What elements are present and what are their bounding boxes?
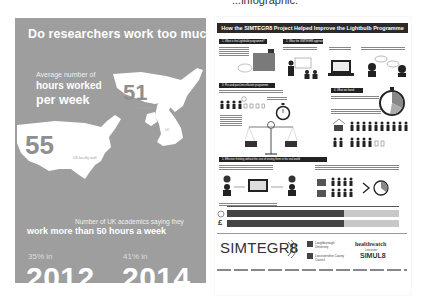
section-3-header: 3. Pre-and post-line efficient programme (219, 83, 275, 88)
bar-ruler (227, 206, 399, 209)
stat-2014-percent: 41% in (123, 252, 147, 261)
leicestershire-logo: Leicestershire County Council (315, 254, 347, 262)
section-4-header: 4. What we found (331, 88, 363, 93)
section-4-text-a (331, 96, 379, 100)
stopwatch-caption (267, 97, 287, 101)
people-row-baseline (331, 136, 391, 148)
panel-title: Do researchers work too much? (28, 27, 206, 41)
clock-icon (217, 210, 225, 218)
headline-50-hours: work more than 50 hours a week (27, 226, 166, 236)
researchers-infographic-panel: Do researchers work too much? 51 UK acad… (15, 18, 206, 283)
time-bar (227, 210, 399, 217)
presenter-icon (285, 57, 321, 79)
people-vs-stopwatch-comparison (315, 175, 405, 199)
divider (217, 233, 407, 234)
section-5-text-b (315, 165, 399, 170)
stopwatch-icon (275, 103, 291, 121)
signal-waves-icon (287, 239, 297, 259)
footer-text (217, 269, 407, 271)
discussion-icon (367, 55, 407, 77)
time-bar-dark (227, 210, 344, 217)
cost-bar-dark (227, 220, 344, 227)
us-hours-label: US faculty staff (73, 156, 96, 160)
us-hours-value: 55 (25, 130, 54, 161)
us-map-shape (15, 113, 135, 213)
scale-caption (220, 115, 242, 127)
time-bar-light (344, 210, 399, 217)
loughborough-crest-icon (307, 241, 313, 247)
section-2-header: 2. What the SIMTEGR8 approach (283, 39, 323, 44)
simtegr8-logo-text: SIMTEGR (220, 239, 290, 256)
stat-2012-percent: 35% in (28, 252, 52, 261)
section-1-header: 1. What is the Lightbulb programme? (219, 39, 267, 44)
stat-2014-year: 2014 (122, 261, 191, 283)
cloud-icon (237, 63, 253, 73)
cost-bar-light (344, 220, 399, 227)
idea-flow-diagram (221, 175, 301, 197)
simtegr8-infographic-panel: How the SIMTEGR8 Project Helped Improve … (215, 17, 411, 295)
uk-hours-value: 51 (123, 80, 147, 106)
hours-worked-label: hours worked (36, 80, 102, 91)
section-2-text-c (361, 47, 405, 51)
pound-icon: £ (218, 218, 222, 227)
loughborough-logo: Loughborough University (315, 241, 347, 249)
section-2-text-b (329, 47, 351, 51)
section-5-text-a (219, 165, 273, 170)
clock-small-icon (241, 96, 247, 102)
uk-academics-count-label: Number of UK academics saying they (75, 218, 184, 225)
cost-bar (227, 220, 399, 227)
leicestershire-crest-icon (307, 253, 313, 259)
lightbulb-box-graphic (253, 53, 275, 71)
section-4-text-b (331, 109, 381, 115)
simul8-logo: SIMUL8 (360, 252, 386, 259)
section-2-text-a (283, 47, 317, 51)
uk-region-label: UK (165, 128, 169, 132)
balance-scale-icon (245, 121, 297, 155)
per-week-label: per week (36, 93, 90, 107)
laptop-icon (328, 59, 354, 77)
top-caption: ...infographic. (150, 0, 380, 6)
stopwatch-pie-icon (378, 87, 406, 117)
lightbulb-icon (267, 47, 275, 53)
avg-label: Average number of (36, 71, 95, 78)
section-5-header: 5. Effective thinking without the cost o… (219, 157, 327, 162)
uk-hours-label: UK academics (137, 106, 156, 110)
section-1-text (219, 47, 249, 57)
stat-2012-year: 2012 (26, 261, 95, 283)
healthwatch-logo: healthwatch (355, 241, 386, 247)
people-row-increased (331, 118, 409, 132)
infographic-title-banner: How the SIMTEGR8 Project Helped Improve … (217, 23, 408, 33)
section-3-text (219, 90, 283, 94)
